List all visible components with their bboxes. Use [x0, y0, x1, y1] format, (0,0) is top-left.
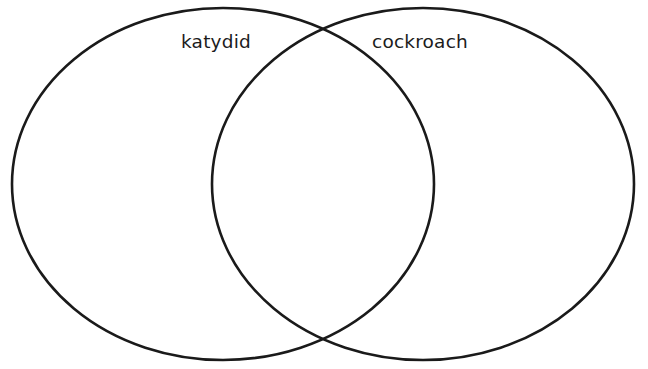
venn-diagram-canvas: katydid cockroach — [0, 0, 648, 369]
venn-label-left: katydid — [181, 31, 251, 52]
venn-label-right: cockroach — [372, 31, 468, 52]
diagram-background — [0, 0, 648, 369]
venn-diagram: katydid cockroach — [0, 0, 648, 369]
